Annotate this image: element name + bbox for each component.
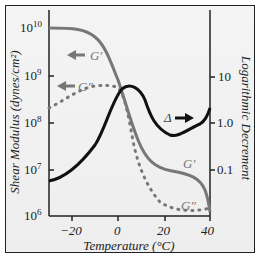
x-tick-40: 40 [201, 223, 215, 238]
y-tick-1e10: 1010 [20, 19, 43, 35]
y-axis-title: Shear Modulus (dynes/cm²) [7, 50, 22, 193]
label-gprime-curve: G′ [183, 156, 195, 171]
arrowhead-left-icon [67, 50, 76, 60]
x-tick-labels: −20 0 20 40 [60, 223, 215, 238]
x-axis-title: Temperature (°C) [83, 238, 174, 253]
annotation-gprime-arrow: G′ [67, 48, 102, 63]
y-right-tick-1: 1.0 [217, 115, 233, 130]
y-tick-1e9: 109 [24, 67, 42, 83]
label-gdoubleprime: G″ [78, 79, 93, 94]
arrowhead-left-icon [57, 81, 66, 91]
chart-svg: 1010 109 108 107 106 10 1.0 0.1 −20 0 20… [0, 0, 260, 259]
label-gprime: G′ [90, 48, 102, 63]
y-right-tick-10: 10 [218, 69, 231, 84]
y-tick-1e6: 106 [24, 207, 42, 223]
x-tick-20: 20 [157, 223, 171, 238]
y-right-tick-0.1: 0.1 [217, 162, 233, 177]
y-axis-right-title: Logarithmic Decrement [239, 55, 254, 180]
arrowhead-right-icon [185, 113, 194, 123]
x-tick-neg20: −20 [60, 223, 82, 238]
y-left-tick-labels: 1010 109 108 107 106 [20, 19, 43, 223]
annotation-delta-arrow: Δ [163, 110, 194, 125]
y-tick-1e7: 107 [24, 161, 42, 177]
axes [49, 10, 215, 221]
label-gdoubleprime-curve: G″ [181, 198, 196, 213]
series-gdoubleprime-line [49, 85, 210, 210]
y-right-tick-labels: 10 1.0 0.1 [217, 69, 233, 177]
y-tick-1e8: 108 [24, 114, 42, 130]
annotation-gdoubleprime-arrow: G″ [57, 79, 93, 94]
label-delta: Δ [163, 110, 172, 125]
x-tick-0: 0 [114, 223, 121, 238]
